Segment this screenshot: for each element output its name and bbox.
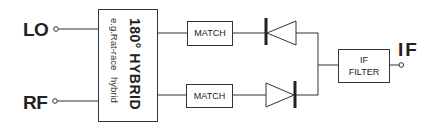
hybrid-subtitle: e.g.Rat-race hybrid: [109, 18, 120, 103]
if-port-terminal-icon: [399, 63, 404, 68]
rf-port-label: RF: [23, 93, 47, 112]
match-top-label: MATCH: [188, 28, 232, 39]
if-filter-block: IF FILTER: [338, 49, 390, 83]
hybrid-title: 180° HYBRID: [127, 18, 143, 110]
if-filter-label-line2: FILTER: [339, 67, 389, 78]
diode-bottom-icon: [266, 81, 295, 108]
lo-port-terminal-icon: [54, 27, 59, 32]
match-bottom-block: MATCH: [186, 84, 233, 108]
diode-top-icon: [266, 18, 296, 45]
if-filter-label-line1: IF: [339, 55, 389, 66]
mixer-block-diagram: LO RF IF 180° HYBRID e.g.Rat-race hybrid…: [0, 0, 437, 135]
match-top-block: MATCH: [187, 21, 233, 46]
lo-port-label: LO: [23, 20, 48, 39]
hybrid-180-block: 180° HYBRID e.g.Rat-race hybrid: [98, 9, 158, 122]
rf-port-terminal-icon: [53, 99, 58, 104]
if-port-label: IF: [398, 40, 419, 59]
match-bottom-label: MATCH: [187, 91, 232, 102]
